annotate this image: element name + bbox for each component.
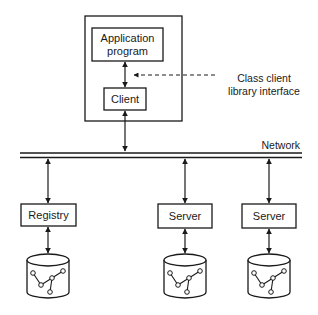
application-label-line1: Application bbox=[101, 32, 155, 44]
database-icon bbox=[164, 254, 206, 298]
network-bus bbox=[20, 153, 302, 158]
server1-box: Server bbox=[158, 204, 212, 228]
client-label: Client bbox=[111, 93, 139, 105]
database-icon bbox=[248, 254, 290, 298]
annotation-line1: Class client bbox=[237, 72, 291, 84]
application-label-line2: program bbox=[107, 45, 148, 57]
application-program-box: Application program bbox=[92, 28, 163, 61]
database-icon bbox=[27, 254, 69, 298]
client-box: Client bbox=[104, 88, 146, 110]
network-label: Network bbox=[261, 139, 300, 151]
server1-label: Server bbox=[169, 210, 202, 222]
registry-label: Registry bbox=[28, 209, 69, 221]
architecture-diagram: Application program Client Class client … bbox=[0, 0, 318, 315]
server2-box: Server bbox=[242, 204, 296, 228]
server2-label: Server bbox=[253, 210, 286, 222]
registry-box: Registry bbox=[21, 204, 76, 226]
annotation-line2: library interface bbox=[228, 85, 300, 97]
